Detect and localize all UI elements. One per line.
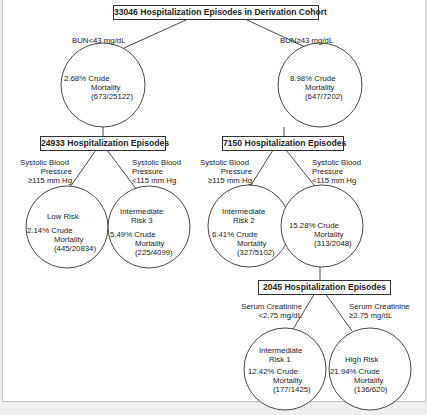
risk-label-2: Risk 2 [212,216,275,225]
mortality-label: Mortality [248,376,311,385]
split-creatinine-low: Serum Creatinine <2.75 mg/dL [238,302,302,320]
split-sbp-low-left: Systolic Blood Pressure <115 mm Hg [132,158,181,185]
mortality-label: Mortality [110,239,173,248]
risk-label: Intermediate [212,207,275,216]
split-line: <2.75 mg/dL [238,311,302,320]
mortality-count: (177/1425) [248,385,311,394]
split-line: Systolic Blood [20,158,72,167]
mortality-pct: 8.98% Crude [290,74,343,83]
split-line: Serum Creatinine [349,302,410,311]
mortality-count: (647/7202) [290,92,343,101]
mortality-count: (225/4099) [110,248,173,257]
split-sbp-high-left: Systolic Blood Pressure ≥115 mm Hg [20,158,72,185]
risk-label: Intermediate [248,346,311,355]
split-bun-low: BUN<43 mg/dL [72,36,126,45]
risk-label: Low Risk [27,212,96,221]
leaf-intermediate-risk-3-text: Intermediate Risk 3 5.49% Crude Mortalit… [110,207,173,257]
split-line: <115 mm Hg [132,176,181,185]
mortality-label: Mortality [330,376,387,385]
split-bun-high: BUN≥43 mg/dL [280,36,333,45]
split-line: Pressure [132,167,181,176]
box-7150-episodes: 7150 Hospitalization Episodes [222,136,344,151]
mortality-label: Mortality [212,239,275,248]
split-line: Systolic Blood [312,158,361,167]
mortality-pct: 2.14% Crude [27,226,96,235]
node-sbp-low-text: 15.28% Crude Mortality (313/2048) [289,221,352,248]
mortality-pct: 15.28% Crude [289,221,352,230]
root-box: 33046 Hospitalization Episodes in Deriva… [113,5,319,20]
mortality-count: (673/25122) [64,92,133,101]
mortality-count: (136/620) [330,385,387,394]
risk-label: Intermediate [110,207,173,216]
mortality-label: Mortality [289,230,352,239]
split-line: Systolic Blood [200,158,252,167]
mortality-pct: 5.49% Crude [110,230,173,239]
mortality-count: (313/2048) [289,239,352,248]
mortality-pct: 21.94% Crude [330,367,387,376]
mortality-pct: 2.68% Crude [64,74,133,83]
split-line: Systolic Blood [132,158,181,167]
mortality-count: (327/5102) [212,248,275,257]
split-line: ≥2.75 mg/dL [349,311,410,320]
split-line: Serum Creatinine [238,302,302,311]
node-bun-low-text: 2.68% Crude Mortality (673/25122) [64,74,133,101]
mortality-label: Mortality [27,235,96,244]
mortality-pct: 12.42% Crude [248,367,311,376]
mortality-pct: 6.41% Crude [212,230,275,239]
risk-label-2: Risk 3 [110,216,173,225]
split-line: Pressure [312,167,361,176]
box-2045-episodes: 2045 Hospitalization Episodes [258,280,391,295]
mortality-count: (445/20834) [27,244,96,253]
split-line: Pressure [20,167,72,176]
split-creatinine-high: Serum Creatinine ≥2.75 mg/dL [349,302,410,320]
leaf-intermediate-risk-2-text: Intermediate Risk 2 6.41% Crude Mortalit… [212,207,275,257]
leaf-intermediate-risk-1-text: Intermediate Risk 1 12.42% Crude Mortali… [248,346,311,394]
mortality-label: Mortality [64,83,133,92]
leaf-high-risk-text: High Risk 21.94% Crude Mortality (136/62… [330,355,387,394]
split-line: ≥115 mm Hg [20,176,72,185]
split-line: Pressure [200,167,252,176]
split-sbp-high-right: Systolic Blood Pressure ≥115 mm Hg [200,158,252,185]
risk-label-2: Risk 1 [248,355,311,364]
split-line: ≥115 mm Hg [200,176,252,185]
risk-label: High Risk [330,355,387,364]
split-sbp-low-right: Systolic Blood Pressure <115 mm Hg [312,158,361,185]
box-24933-episodes: 24933 Hospitalization Episodes [40,136,166,151]
node-bun-high-text: 8.98% Crude Mortality (647/7202) [290,74,343,101]
mortality-label: Mortality [290,83,343,92]
split-line: <115 mm Hg [312,176,361,185]
leaf-low-risk-text: Low Risk 2.14% Crude Mortality (445/2083… [27,212,96,253]
